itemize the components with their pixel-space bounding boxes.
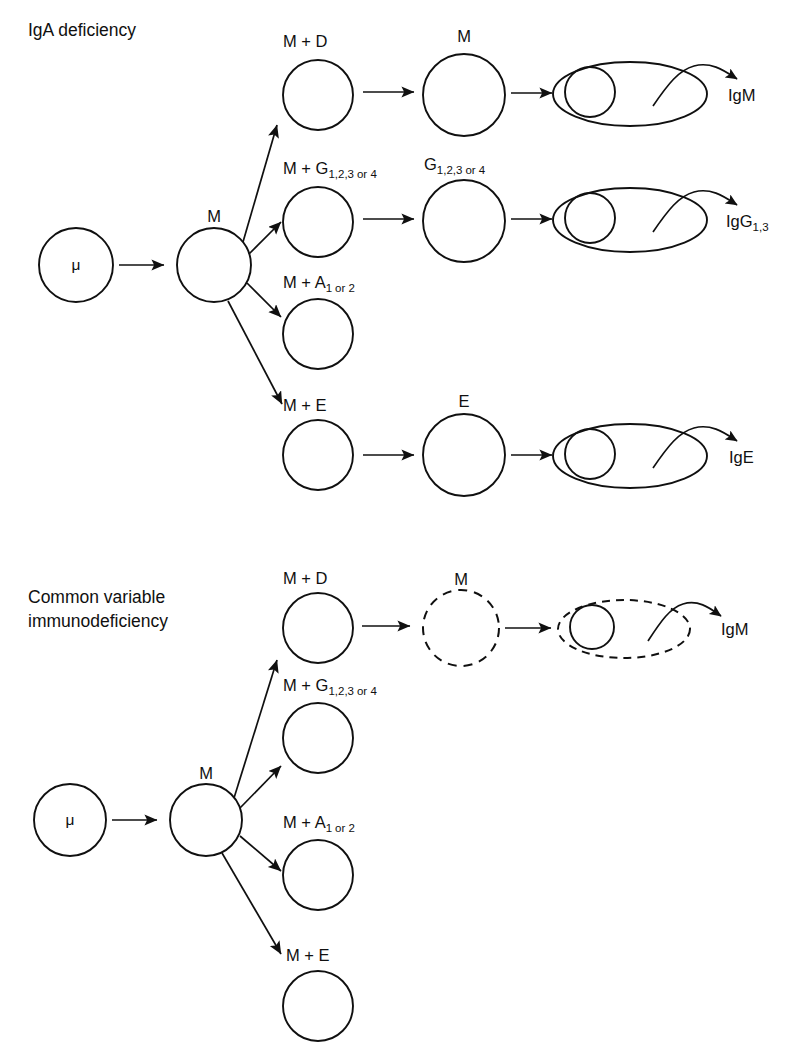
branch-d-secretion-label: IgM: [721, 620, 749, 638]
plasma-cell-nucleus: [565, 429, 615, 479]
arrow-branch-a: [240, 836, 281, 871]
arrow-branch-d: [243, 125, 277, 242]
branch-e: M + E: [283, 946, 353, 1041]
branch-d-stage2-circle: [423, 54, 505, 136]
branch-g-stage1-circle: [283, 703, 353, 773]
plasma-cell-nucleus: [565, 67, 615, 117]
panel-common-variable-immunodeficiency: Common variable immunodeficiency μ M M +…: [28, 569, 749, 1041]
branch-g-stage1-label: M + G1,2,3or 4: [283, 676, 377, 697]
branch-a: M + A1or 2: [283, 813, 355, 910]
preb-cell-circle: [177, 228, 251, 302]
branch-d: M + D M IgM: [283, 27, 756, 136]
preb-cell-node: M: [170, 764, 242, 856]
preb-cell-node: M: [177, 207, 251, 302]
panel-title: IgA deficiency: [28, 20, 136, 40]
branch-d: M + D M IgM: [283, 569, 749, 666]
stem-cell-node: μ: [34, 784, 106, 856]
arrow-branch-e: [222, 853, 281, 954]
branch-d-stage2-circle-dashed: [423, 590, 499, 666]
branch-d-stage1-circle: [283, 593, 353, 663]
arrow-branch-e: [228, 301, 282, 404]
branch-g-stage1-label: M + G1,2,3or 4: [283, 159, 377, 180]
arrow-branch-g: [240, 766, 281, 808]
branch-e-stage1-label: M + E: [283, 396, 327, 414]
branch-d-secretion-label: IgM: [728, 86, 756, 104]
secretion-arrow: [653, 427, 737, 468]
branch-g: M + G1,2,3or 4: [283, 676, 377, 773]
plasma-cell-body-dashed: [558, 600, 690, 658]
branch-d-stage2-label: M: [454, 570, 468, 588]
secretion-arrow: [648, 603, 721, 641]
plasma-cell-ige: [553, 424, 737, 488]
plasma-cell-nucleus: [570, 605, 614, 649]
branch-e-stage1-circle: [283, 971, 353, 1041]
branch-a: M + A1or 2: [283, 273, 355, 369]
branch-d-stage2-label: M: [457, 27, 471, 45]
panel-title-line1: Common variable: [28, 587, 165, 607]
branch-e: M + E E IgE: [283, 392, 754, 496]
branch-g-stage1-circle: [283, 187, 353, 257]
branch-g-stage2-label: G1,2,3or 4: [424, 155, 486, 176]
branch-d-stage1-circle: [283, 60, 353, 130]
branch-e-stage2-circle: [423, 414, 505, 496]
branch-d-stage1-label: M + D: [283, 32, 328, 50]
branch-g-secretion-label: IgG1,3: [726, 212, 769, 233]
branch-d-stage1-label: M + D: [283, 569, 328, 587]
branch-a-stage1-circle: [283, 840, 353, 910]
preb-cell-label: M: [207, 207, 221, 225]
plasma-cell-igm: [553, 62, 737, 126]
branch-a-stage1-circle: [283, 299, 353, 369]
arrow-branch-a: [247, 283, 281, 317]
plasma-cell-igm: [558, 600, 721, 658]
branch-g-stage2-circle: [423, 180, 505, 262]
preb-cell-circle: [170, 784, 242, 856]
stem-cell-node: μ: [39, 228, 113, 302]
arrow-branch-g: [249, 222, 281, 254]
panel-title-line2: immunodeficiency: [28, 611, 168, 631]
preb-cell-label: M: [199, 764, 213, 782]
stem-cell-label: μ: [66, 811, 75, 828]
secretion-arrow: [653, 191, 737, 232]
branch-a-stage1-label: M + A1or 2: [283, 813, 355, 834]
stem-cell-label: μ: [72, 256, 81, 273]
branch-a-stage1-label: M + A1or 2: [283, 273, 355, 294]
branch-e-stage1-circle: [283, 420, 353, 490]
branch-e-stage1-label: M + E: [286, 946, 330, 964]
immunodeficiency-diagram: IgA deficiency μ M M + D M: [0, 0, 795, 1060]
branch-g: M + G1,2,3or 4 G1,2,3or 4 IgG1,3: [283, 155, 769, 262]
secretion-arrow: [653, 65, 737, 106]
figure-canvas: IgA deficiency μ M M + D M: [0, 0, 795, 1060]
branch-e-stage2-label: E: [458, 392, 469, 410]
plasma-cell-nucleus: [565, 193, 615, 243]
plasma-cell-igg: [553, 188, 737, 252]
branch-e-secretion-label: IgE: [729, 448, 754, 466]
panel-iga-deficiency: IgA deficiency μ M M + D M: [28, 20, 769, 496]
